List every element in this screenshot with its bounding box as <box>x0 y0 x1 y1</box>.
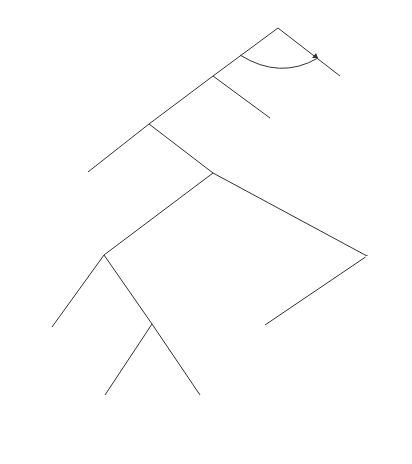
game-tree-diagram <box>0 0 412 464</box>
tree-edges <box>0 0 412 464</box>
